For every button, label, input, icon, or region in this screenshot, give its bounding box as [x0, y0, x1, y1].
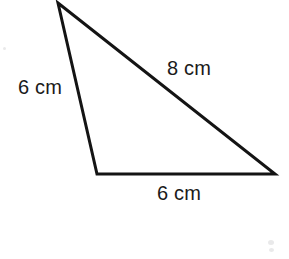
triangle-figure: 6 cm 8 cm 6 cm — [0, 0, 289, 259]
triangle-drawing — [0, 0, 289, 259]
scan-artifact-speck — [268, 240, 274, 245]
scan-artifact-speck — [269, 248, 274, 252]
side-label-bottom: 6 cm — [157, 183, 201, 203]
side-label-left: 6 cm — [18, 77, 62, 97]
scan-artifact-speck — [3, 47, 6, 50]
side-label-hypotenuse: 8 cm — [167, 58, 211, 78]
